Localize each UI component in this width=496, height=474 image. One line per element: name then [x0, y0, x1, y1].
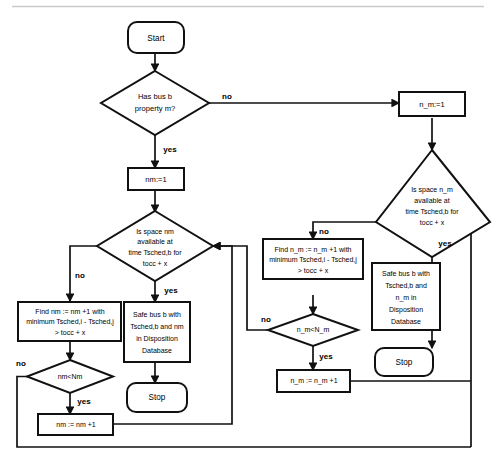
edge-label-has-property-no: no: [222, 92, 232, 101]
node-stop-left-label: Stop: [149, 393, 166, 402]
edge-label-is-space-n-m-yes: yes: [438, 239, 452, 248]
node-stop-right-label: Stop: [396, 358, 413, 367]
node-safe-n-m-line4: Disposition: [389, 306, 423, 314]
flowchart-svg: n_m:=1 --> nm:=1 --> find nm (left then …: [0, 0, 496, 474]
flowchart-canvas: n_m:=1 --> nm:=1 --> find nm (left then …: [0, 0, 496, 474]
edge-label-n-m-compare-yes: yes: [319, 352, 333, 361]
node-is-space-nm-line2: available at: [137, 238, 172, 245]
node-start-label: Start: [147, 34, 165, 43]
node-safe-nm-line2: Tsched,b and nm: [130, 323, 183, 330]
node-has-property-line1: Has bus b: [138, 92, 172, 101]
edge-label-n-m-compare-no: no: [261, 315, 271, 324]
edge-label-nm-compare-yes: yes: [77, 397, 91, 406]
node-n-m-compare-label: n_m<N_m: [297, 326, 330, 334]
node-is-space-nm-line1: Is space nm: [136, 228, 174, 236]
node-find-nm-line1: Find nm := nm +1 with: [35, 308, 104, 315]
node-is-space-nm-line4: tocc + x: [143, 260, 168, 267]
node-n-m-init-label: n_m:=1: [419, 100, 445, 109]
node-is-space-n-m-line4: tocc + x: [420, 219, 445, 226]
node-safe-nm-line1: Safe bus b with: [133, 311, 181, 318]
node-safe-nm-line4: Database: [142, 347, 172, 354]
edge-label-has-property-yes: yes: [163, 145, 177, 154]
node-has-property[interactable]: [101, 71, 209, 135]
edge-label-is-space-n-m-no: no: [319, 227, 329, 236]
node-find-nm-line2: minimum Tsched,i - Tsched,j: [26, 318, 114, 326]
node-safe-nm-line3: in Disposition: [136, 335, 178, 343]
edge-label-is-space-nm-no: no: [75, 271, 85, 280]
node-is-space-nm-line3: time Tsched,b for: [128, 249, 182, 256]
node-safe-n-m-line5: Database: [391, 318, 421, 325]
edge-label-nm-compare-no: no: [16, 359, 26, 368]
node-is-space-n-m-line2: available at: [414, 197, 449, 204]
node-is-space-nm[interactable]: [97, 211, 213, 281]
node-find-nm-line3: > tocc + x: [55, 329, 86, 336]
node-nm-init-label: nm:=1: [145, 175, 166, 184]
node-find-n-m-line1: Find n_m := n_m +1 with: [274, 246, 351, 254]
node-find-n-m-line3: > tocc + x: [298, 267, 329, 274]
node-n-m-incr-label: n_m := n_m +1: [290, 377, 337, 385]
node-safe-n-m-line3: n_m in: [395, 294, 416, 302]
node-nm-compare-label: nm<Nm: [58, 373, 83, 380]
node-is-space-n-m-line3: time Tsched,b for: [405, 208, 459, 215]
edge-label-is-space-nm-yes: yes: [164, 286, 178, 295]
node-has-property-line2: property m?: [135, 104, 176, 113]
node-nm-incr-label: nm := nm +1: [56, 421, 95, 428]
edge-bottom-rail-to-is-space-n-m: [461, 222, 471, 447]
node-safe-n-m-line2: Tsched,b and: [385, 282, 427, 289]
node-is-space-n-m-line1: Is space n_m: [411, 186, 453, 194]
node-safe-n-m-line1: Safe bus b with: [382, 270, 430, 277]
node-find-n-m-line2: minimum Tsched,i - Tsched,j: [269, 256, 357, 264]
